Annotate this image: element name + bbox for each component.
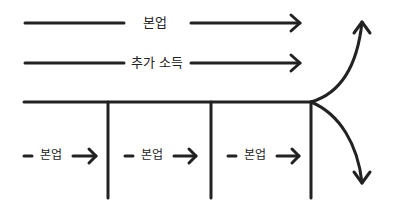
top-flow-1-label: 본업	[143, 16, 167, 29]
segment-2-label: 본업	[141, 149, 163, 161]
flow-diagram	[0, 0, 394, 211]
segment-3-label: 본업	[244, 149, 266, 161]
top-flow-2-label: 추가 소득	[131, 56, 183, 69]
segment-1-label: 본업	[40, 149, 62, 161]
